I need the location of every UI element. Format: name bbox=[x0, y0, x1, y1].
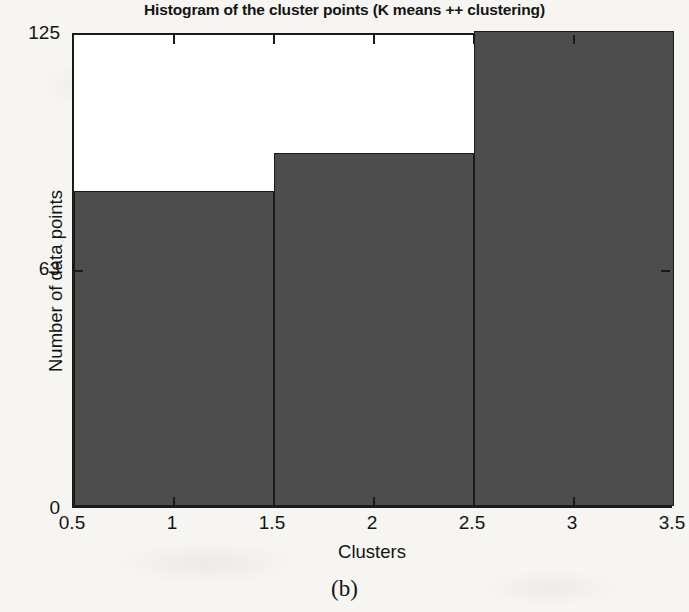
x-axis-tick-label: 3.5 bbox=[637, 512, 689, 534]
x-axis-tick-label: 1 bbox=[137, 512, 207, 534]
x-axis-tick bbox=[573, 35, 575, 44]
x-axis-tick-label: 3 bbox=[537, 512, 607, 534]
figure-caption: (b) bbox=[0, 576, 689, 602]
x-axis-tick bbox=[273, 497, 275, 506]
figure-panel: Histogram of the cluster points (K means… bbox=[0, 0, 689, 612]
y-axis-label: Number of data points bbox=[45, 121, 67, 441]
y-axis-tick bbox=[74, 270, 83, 272]
chart-title: Histogram of the cluster points (K means… bbox=[0, 1, 689, 19]
x-axis-tick-label: 2 bbox=[337, 512, 407, 534]
y-axis-tick-label: 0 bbox=[49, 497, 60, 519]
x-axis-tick bbox=[373, 497, 375, 506]
plot-area bbox=[72, 33, 672, 508]
x-axis-tick-label: 1.5 bbox=[237, 512, 307, 534]
x-axis-tick bbox=[473, 35, 475, 44]
x-axis-label: Clusters bbox=[72, 541, 672, 563]
x-axis-tick bbox=[573, 497, 575, 506]
x-axis-tick bbox=[473, 497, 475, 506]
x-axis-tick bbox=[373, 35, 375, 44]
x-axis-tick bbox=[173, 497, 175, 506]
x-axis-tick bbox=[273, 35, 275, 44]
y-axis-tick-label: 125 bbox=[28, 22, 60, 44]
x-axis-tick-label: 2.5 bbox=[437, 512, 507, 534]
histogram-bar bbox=[474, 31, 674, 506]
y-axis-tick bbox=[661, 270, 670, 272]
histogram-bar bbox=[74, 191, 274, 506]
x-axis-tick bbox=[173, 35, 175, 44]
histogram-bar bbox=[274, 153, 474, 506]
